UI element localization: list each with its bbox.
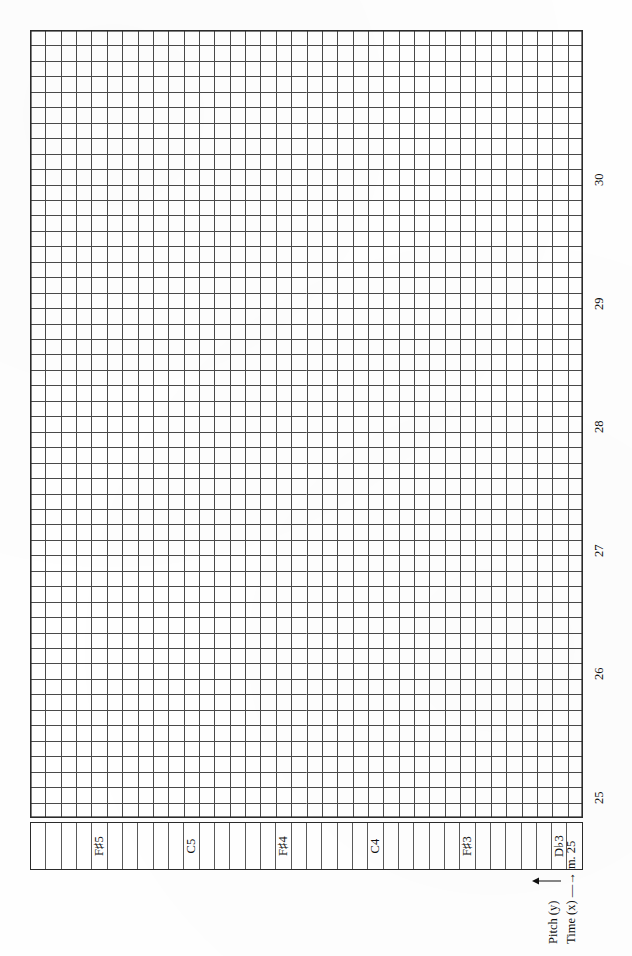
pitch-empty-cell[interactable] (307, 823, 322, 869)
measure-number: 27 (586, 557, 626, 575)
pitch-empty-cell[interactable] (200, 823, 215, 869)
pitch-empty-cell[interactable] (353, 823, 368, 869)
pitch-empty-cell[interactable] (246, 823, 261, 869)
pitch-label-cell[interactable]: F♯5 (92, 823, 107, 869)
pitch-empty-cell[interactable] (261, 823, 276, 869)
pitch-empty-cell[interactable] (31, 823, 46, 869)
pitch-empty-cell[interactable] (138, 823, 153, 869)
pitch-empty-cell[interactable] (399, 823, 414, 869)
pitch-empty-cell[interactable] (292, 823, 307, 869)
measure-number: 29 (586, 310, 626, 328)
pitch-label-cell[interactable]: C4 (368, 823, 383, 869)
measure-number: 28 (586, 433, 626, 451)
pitch-direction-arrow-icon (532, 874, 562, 888)
pitch-time-grid[interactable] (30, 30, 583, 818)
pitch-empty-cell[interactable] (169, 823, 184, 869)
measure-number: 30 (586, 186, 626, 204)
pitch-empty-cell[interactable] (77, 823, 92, 869)
pitch-empty-cell[interactable] (491, 823, 506, 869)
worksheet-page: F♯5C5F♯4C4F♯3D♭3 252627282930 Pitch (y) … (0, 0, 632, 956)
pitch-label-cell[interactable]: F♯3 (460, 823, 475, 869)
measure-number-axis: 252627282930 (586, 0, 632, 956)
pitch-empty-cell[interactable] (322, 823, 337, 869)
pitch-label: C5 (184, 839, 199, 854)
pitch-empty-cell[interactable] (522, 823, 537, 869)
pitch-empty-cell[interactable] (445, 823, 460, 869)
pitch-label: C4 (368, 839, 383, 854)
pitch-empty-cell[interactable] (506, 823, 521, 869)
pitch-label-cell[interactable]: F♯4 (276, 823, 291, 869)
pitch-empty-cell[interactable] (62, 823, 77, 869)
pitch-empty-cell[interactable] (154, 823, 169, 869)
pitch-empty-cell[interactable] (414, 823, 429, 869)
measure-number: 25 (586, 804, 626, 822)
pitch-empty-cell[interactable] (215, 823, 230, 869)
pitch-empty-cell[interactable] (476, 823, 491, 869)
pitch-label-cell[interactable]: C5 (184, 823, 199, 869)
pitch-label: F♯4 (276, 836, 291, 856)
pitch-empty-cell[interactable] (537, 823, 552, 869)
pitch-empty-cell[interactable] (230, 823, 245, 869)
pitch-label: F♯5 (92, 836, 107, 856)
pitch-label: F♯3 (460, 836, 475, 856)
pitch-empty-cell[interactable] (108, 823, 123, 869)
pitch-label-row: F♯5C5F♯4C4F♯3D♭3 (30, 822, 583, 870)
pitch-empty-cell[interactable] (430, 823, 445, 869)
grid-canvas[interactable] (30, 30, 583, 818)
pitch-empty-cell[interactable] (384, 823, 399, 869)
pitch-empty-cell[interactable] (46, 823, 61, 869)
axis-captions: Pitch (y) Time (x) —→ m. 25 (528, 866, 632, 956)
pitch-axis-caption: Pitch (y) (546, 901, 561, 944)
time-axis-caption: Time (x) —→ m. 25 (564, 841, 579, 944)
pitch-empty-cell[interactable] (338, 823, 353, 869)
measure-number: 26 (586, 680, 626, 698)
pitch-empty-cell[interactable] (123, 823, 138, 869)
